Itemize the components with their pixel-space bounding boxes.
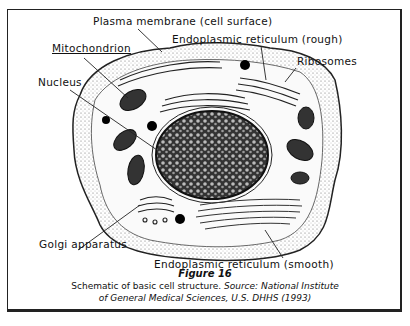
caption-line-1: Schematic of basic cell structure. Sourc… (0, 281, 410, 291)
label-nucleus: Nucleus (38, 76, 82, 88)
label-ribosomes: Ribosomes (297, 55, 357, 67)
caption-text: Schematic of basic cell structure. (71, 281, 224, 291)
caption-source: Source: National Institute (224, 281, 339, 291)
label-golgi-apparatus: Golgi apparatus (39, 238, 127, 250)
label-plasma-membrane: Plasma membrane (cell surface) (93, 15, 272, 27)
caption-line-2: of General Medical Sciences, U.S. DHHS (… (0, 293, 410, 303)
label-er-rough: Endoplasmic reticulum (rough) (172, 33, 343, 45)
label-mitochondrion: Mitochondrion (52, 42, 131, 54)
figure-title: Figure 16 (0, 268, 410, 279)
